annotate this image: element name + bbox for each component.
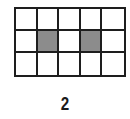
grid-cell: [59, 53, 81, 75]
grid-diagram: [14, 7, 126, 77]
grid-cell: [59, 31, 81, 53]
grid-cell-shaded: [81, 31, 103, 53]
grid-cell: [59, 9, 81, 31]
grid-cell-shaded: [38, 31, 60, 53]
grid-cell: [16, 9, 38, 31]
grid-cell: [81, 9, 103, 31]
grid-cell: [102, 9, 124, 31]
grid-cell: [81, 53, 103, 75]
grid-cell: [38, 53, 60, 75]
grid-cell: [102, 31, 124, 53]
grid-cell: [38, 9, 60, 31]
figure-label: 2: [13, 94, 117, 114]
grid-cell: [16, 31, 38, 53]
grid-cell: [102, 53, 124, 75]
grid-cell: [16, 53, 38, 75]
